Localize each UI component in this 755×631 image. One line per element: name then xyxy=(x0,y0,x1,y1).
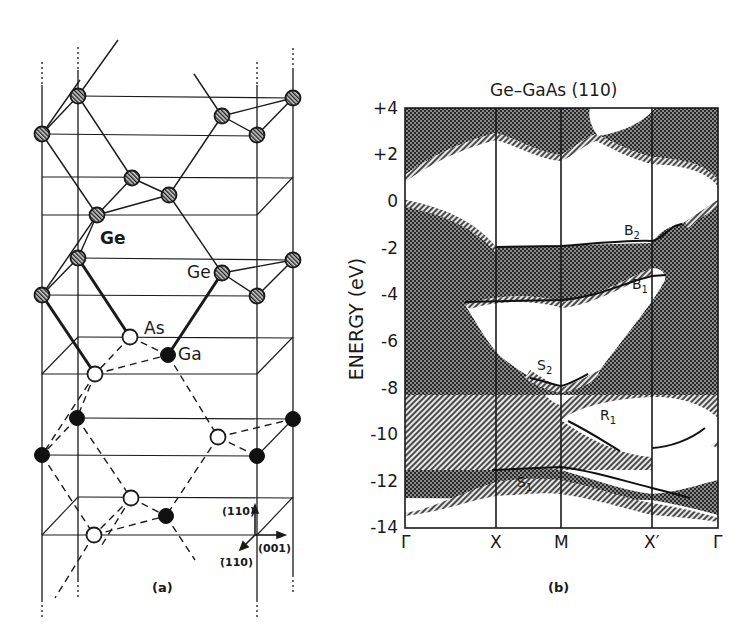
label-ga: Ga xyxy=(178,344,202,364)
y-tick: -6 xyxy=(381,331,398,351)
y-tick: -8 xyxy=(381,378,398,398)
label-b1: B1 xyxy=(632,276,648,295)
ge-atoms xyxy=(35,89,301,304)
label-s2-main: S xyxy=(537,357,546,373)
label-as: As xyxy=(144,318,165,338)
y-tick: -2 xyxy=(381,238,398,258)
x-tick: Γ xyxy=(401,532,410,552)
label-s1: S1 xyxy=(517,474,532,493)
axis-label-001: (001) xyxy=(258,542,291,555)
figure: Ge Ge As Ga (110) (001) (̄110) (a) Ge–Ga… xyxy=(0,0,755,631)
x-tick: X xyxy=(490,532,502,552)
y-tick: 0 xyxy=(387,191,398,211)
caption-b: (b) xyxy=(548,580,569,595)
label-b1-main: B xyxy=(632,276,642,292)
label-r1-main: R xyxy=(600,407,610,423)
x-tick: X′ xyxy=(644,532,660,552)
label-b1-sub: 1 xyxy=(642,284,648,295)
chart-title: Ge–GaAs (110) xyxy=(490,80,617,100)
label-s1-sub: 1 xyxy=(526,482,532,493)
label-s2-sub: 2 xyxy=(546,365,552,376)
label-s1-main: S xyxy=(517,474,526,490)
y-axis-label: ENERGY (eV) xyxy=(345,229,367,409)
axis-label-110: (110) xyxy=(222,505,255,518)
panel-a-structure xyxy=(35,40,301,620)
y-tick: +4 xyxy=(373,98,398,118)
label-r1: R1 xyxy=(600,407,616,426)
x-tick: M xyxy=(554,532,569,552)
x-tick: Γ xyxy=(713,532,722,552)
y-tick: -10 xyxy=(370,424,398,444)
label-b2: B2 xyxy=(624,222,640,241)
y-tick: -12 xyxy=(370,471,398,491)
label-ge-left: Ge xyxy=(100,228,125,248)
axis-label-bar110: (̄110) xyxy=(220,556,253,569)
caption-a: (a) xyxy=(152,580,173,595)
label-r1-sub: 1 xyxy=(610,415,616,426)
label-b2-main: B xyxy=(624,222,634,238)
gaas-bonds xyxy=(42,337,293,598)
y-tick: -14 xyxy=(370,517,398,537)
y-tick: -4 xyxy=(381,284,398,304)
label-b2-sub: 2 xyxy=(634,230,640,241)
layer-planes xyxy=(42,96,293,535)
label-s2: S2 xyxy=(537,357,552,376)
label-ge-right: Ge xyxy=(187,262,211,282)
panel-b-chart xyxy=(405,108,718,532)
y-tick: +2 xyxy=(373,144,398,164)
